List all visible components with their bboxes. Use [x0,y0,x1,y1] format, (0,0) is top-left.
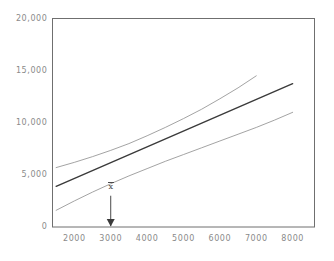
plot-area [0,0,334,261]
x-tick-label: 3000 [91,234,131,243]
y-tick-label: 10,000 [16,118,48,127]
x-tick-label: 2000 [54,234,94,243]
x-tick-label: 4000 [127,234,167,243]
x-tick-label: 7000 [236,234,276,243]
x-tick-label: 8000 [273,234,313,243]
plot-frame [53,19,315,228]
x-bar-mean-label: x [96,182,126,191]
y-tick-label: 20,000 [16,14,48,23]
x-bar-symbol: x [108,182,113,191]
y-tick-label: 0 [42,222,48,231]
y-tick-label: 5,000 [22,170,48,179]
x-tick-label: 5000 [164,234,204,243]
x-tick-label: 6000 [200,234,240,243]
y-tick-label: 15,000 [16,66,48,75]
chart-figure: 05,00010,00015,00020,000 200030004000500… [0,0,334,261]
